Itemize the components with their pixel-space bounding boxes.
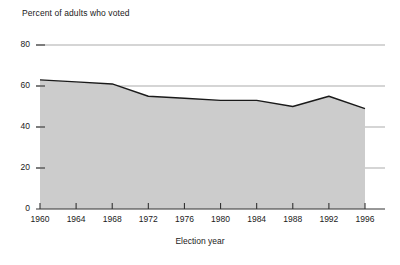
chart-svg xyxy=(0,0,400,265)
x-tick-label: 1980 xyxy=(204,214,238,224)
x-tick-label: 1976 xyxy=(167,214,201,224)
y-tick-label: 0 xyxy=(8,203,30,213)
x-tick-label: 1992 xyxy=(312,214,346,224)
x-tick-label: 1960 xyxy=(23,214,57,224)
x-tick-label: 1968 xyxy=(95,214,129,224)
plot-area: 020406080 196019641968197219761980198419… xyxy=(0,0,400,265)
x-tick-label: 1996 xyxy=(348,214,382,224)
x-tick-label: 1964 xyxy=(59,214,93,224)
y-tick-label: 20 xyxy=(8,162,30,172)
chart-container: Percent of adults who voted 020406080 19… xyxy=(0,0,400,265)
x-axis-title: Election year xyxy=(0,236,400,246)
y-tick-label: 80 xyxy=(8,39,30,49)
area-series-group xyxy=(40,80,365,209)
x-tick-label: 1984 xyxy=(240,214,274,224)
x-tick-label: 1972 xyxy=(131,214,165,224)
x-tick-label: 1988 xyxy=(276,214,310,224)
y-tick-label: 60 xyxy=(8,80,30,90)
y-tick-label: 40 xyxy=(8,121,30,131)
